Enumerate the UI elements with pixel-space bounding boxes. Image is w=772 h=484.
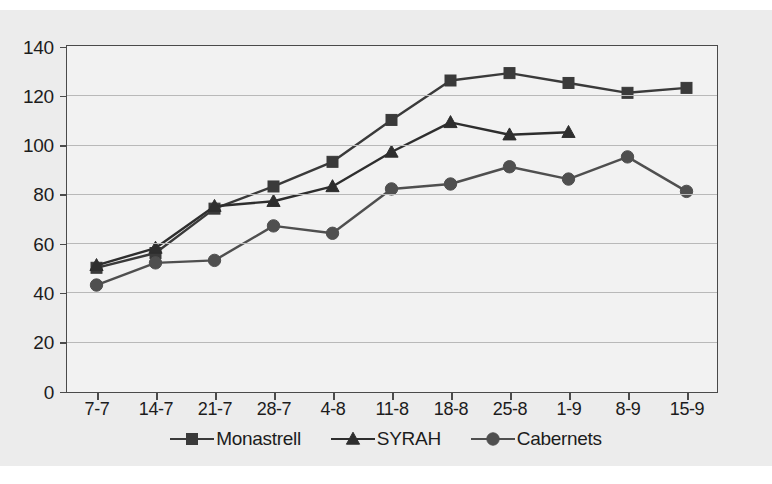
circle-marker-icon — [326, 227, 338, 239]
y-axis-tick-label: 80 — [0, 185, 54, 204]
x-axis-tick-mark — [451, 393, 453, 400]
x-axis-tick-mark — [510, 393, 512, 400]
y-axis-tick-label: 0 — [0, 382, 54, 401]
x-axis-tick-mark — [156, 393, 158, 400]
x-axis-tick-mark — [97, 393, 99, 400]
x-axis-tick-label: 11-8 — [375, 399, 408, 420]
y-axis-tick-mark — [60, 342, 67, 344]
triangle-marker-icon — [444, 116, 457, 128]
legend-label: SYRAH — [377, 428, 441, 450]
legend-swatch — [170, 430, 214, 448]
y-axis-tick-label: 40 — [0, 283, 54, 302]
circle-marker-icon — [208, 254, 220, 266]
gridline — [67, 95, 717, 96]
triangle-marker-icon — [326, 180, 339, 192]
y-axis-tick-label: 120 — [0, 86, 54, 105]
gridline — [67, 292, 717, 293]
square-marker-icon — [268, 181, 279, 192]
circle-marker-icon — [149, 257, 161, 269]
legend-item-monastrell[interactable]: Monastrell — [170, 428, 301, 450]
x-axis-tick-mark — [569, 393, 571, 400]
circle-marker-icon — [487, 433, 499, 445]
triangle-marker-icon — [385, 145, 398, 157]
circle-marker-icon — [267, 220, 279, 232]
gridline — [67, 194, 717, 195]
x-axis-tick-label: 21-7 — [198, 399, 232, 420]
x-axis-tick-mark — [628, 393, 630, 400]
y-axis-tick-mark — [60, 392, 67, 394]
x-axis-tick-label: 25-8 — [493, 399, 527, 420]
circle-marker-icon — [680, 185, 692, 197]
y-axis-tick-mark — [60, 96, 67, 98]
x-axis-tick-label: 28-7 — [257, 399, 291, 420]
circle-marker-icon — [621, 151, 633, 163]
x-axis-tick-mark — [392, 393, 394, 400]
circle-marker-icon — [444, 178, 456, 190]
y-axis-tick-label: 140 — [0, 37, 54, 56]
gridline — [67, 243, 717, 244]
y-axis-tick-label: 100 — [0, 136, 54, 155]
series-line — [97, 73, 687, 268]
y-axis-tick-mark — [60, 293, 67, 295]
y-axis-tick-label: 60 — [0, 234, 54, 253]
series-line — [97, 157, 687, 285]
circle-marker-icon — [562, 173, 574, 185]
chart-legend: MonastrellSYRAHCabernets — [0, 428, 772, 450]
gridline — [67, 342, 717, 343]
y-axis-tick-mark — [60, 145, 67, 147]
x-axis-tick-mark — [274, 393, 276, 400]
square-marker-icon — [681, 82, 692, 93]
legend-label: Monastrell — [216, 428, 301, 450]
y-axis-tick-label: 20 — [0, 333, 54, 352]
legend-swatch — [471, 430, 515, 448]
chart-figure: 020406080100120140 7-714-721-728-74-811-… — [0, 10, 772, 466]
square-marker-icon — [504, 68, 515, 79]
square-marker-icon — [622, 87, 633, 98]
circle-marker-icon — [503, 161, 515, 173]
x-axis-tick-label: 7-7 — [85, 399, 110, 420]
square-marker-icon — [327, 156, 338, 167]
legend-label: Cabernets — [517, 428, 602, 450]
y-axis-tick-mark — [60, 47, 67, 49]
x-axis-tick-label: 14-7 — [139, 399, 173, 420]
x-axis-tick-label: 8-9 — [616, 399, 641, 420]
circle-marker-icon — [90, 279, 102, 291]
x-axis-tick-label: 1-9 — [557, 399, 582, 420]
plot-area — [66, 45, 718, 393]
series-cabernets — [90, 151, 692, 292]
legend-swatch — [331, 430, 375, 448]
square-marker-icon — [445, 75, 456, 86]
legend-item-syrah[interactable]: SYRAH — [331, 428, 441, 450]
x-axis-tick-mark — [333, 393, 335, 400]
square-marker-icon — [181, 430, 203, 448]
triangle-marker-icon — [342, 430, 364, 448]
square-marker-icon — [563, 77, 574, 88]
x-axis-tick-label: 4-8 — [321, 399, 346, 420]
x-axis-tick-label: 15-9 — [670, 399, 704, 420]
square-marker-icon — [386, 114, 397, 125]
triangle-marker-icon — [346, 432, 359, 444]
x-axis-tick-mark — [215, 393, 217, 400]
square-marker-icon — [187, 434, 198, 445]
x-axis-tick-label: 18-8 — [434, 399, 468, 420]
series-layer — [67, 46, 716, 391]
x-axis-tick-mark — [687, 393, 689, 400]
y-axis-tick-mark — [60, 194, 67, 196]
circle-marker-icon — [482, 430, 504, 448]
legend-item-cabernets[interactable]: Cabernets — [471, 428, 602, 450]
gridline — [67, 145, 717, 146]
y-axis-tick-mark — [60, 244, 67, 246]
